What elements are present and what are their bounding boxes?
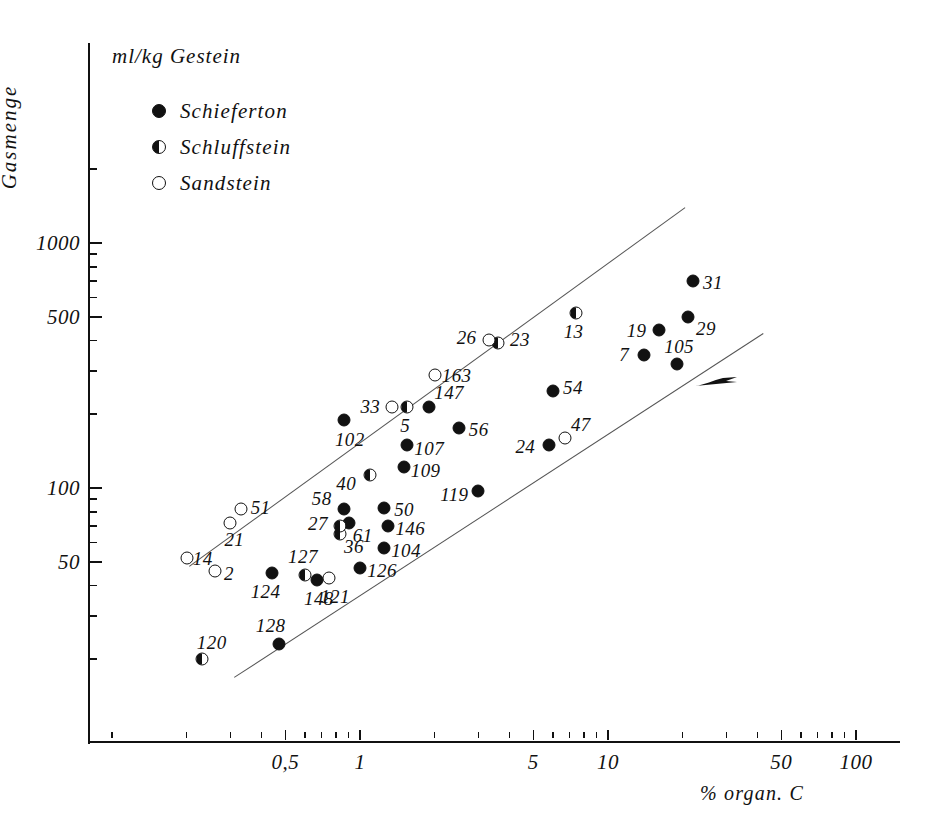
data-point-40 [364, 468, 377, 481]
data-point-label-23: 23 [510, 329, 530, 351]
data-point-label-40: 40 [336, 473, 356, 495]
data-point-51 [234, 503, 247, 516]
x-tick-label: 10 [597, 750, 619, 775]
data-point-127 [298, 569, 311, 582]
x-tick [261, 732, 263, 738]
data-point-label-128: 128 [256, 615, 286, 637]
y-axis-title: Gasmenge [0, 72, 22, 202]
data-point-label-33: 33 [360, 396, 380, 418]
half-circle-icon [152, 140, 166, 154]
y-tick [90, 413, 97, 415]
legend: Schieferton Schluffstein Sandstein [152, 93, 291, 201]
x-tick [533, 730, 535, 740]
x-tick-label: 50 [770, 750, 792, 775]
x-tick [285, 730, 287, 740]
data-point-label-13: 13 [564, 321, 584, 343]
data-point-7 [638, 348, 651, 361]
data-point-5 [401, 400, 414, 413]
x-tick [569, 732, 571, 738]
data-point-31 [686, 274, 699, 287]
data-point-124 [265, 566, 278, 579]
x-tick-label: 0,5 [271, 750, 299, 775]
data-point-29 [681, 310, 694, 323]
data-point-label-29: 29 [696, 318, 716, 340]
x-tick [304, 732, 306, 738]
data-point-label-127: 127 [288, 546, 318, 568]
x-tick [607, 730, 609, 740]
y-tick [90, 316, 102, 318]
data-point-label-31: 31 [703, 272, 723, 294]
x-tick [359, 730, 361, 740]
x-tick [831, 732, 833, 738]
y-tick-label: 50 [2, 549, 80, 574]
data-point-13 [569, 306, 582, 319]
y-tick [90, 266, 97, 268]
data-point-label-5: 5 [400, 415, 410, 437]
data-point-label-51: 51 [251, 497, 271, 519]
x-tick [335, 732, 337, 738]
data-point-label-54: 54 [563, 377, 583, 399]
legend-item-schluffstein: Schluffstein [152, 129, 291, 165]
data-point-label-2: 2 [224, 563, 234, 585]
y-tick [90, 168, 97, 170]
data-point-label-126: 126 [367, 560, 397, 582]
data-point-121 [323, 571, 336, 584]
data-point-109 [397, 460, 410, 473]
x-tick [186, 732, 188, 738]
data-point-146 [382, 519, 395, 532]
y-tick [90, 370, 97, 372]
data-point-label-109: 109 [411, 460, 441, 482]
legend-label: Schluffstein [180, 135, 291, 160]
y-tick [90, 340, 97, 342]
data-point-33 [386, 400, 399, 413]
x-tick [434, 732, 436, 738]
y-tick [90, 242, 102, 244]
data-point-56 [452, 422, 465, 435]
x-tick [800, 732, 802, 738]
legend-label: Sandstein [180, 171, 272, 196]
data-point-label-163: 163 [442, 365, 472, 387]
data-point-label-107: 107 [414, 438, 444, 460]
x-tick [682, 732, 684, 738]
data-point-54 [546, 384, 559, 397]
y-tick [90, 498, 97, 500]
x-tick [321, 732, 323, 738]
data-point-102 [337, 413, 350, 426]
data-point-50 [378, 501, 391, 514]
y-axis-line [88, 43, 90, 744]
data-point-label-21: 21 [224, 529, 244, 551]
x-tick [348, 732, 350, 738]
data-point-163 [428, 368, 441, 381]
data-point-14 [180, 551, 193, 564]
data-point-126 [354, 562, 367, 575]
data-point-label-26: 26 [457, 327, 477, 349]
data-point-105 [671, 358, 684, 371]
data-point-label-58: 58 [312, 488, 332, 510]
data-point-58 [337, 503, 350, 516]
x-tick [844, 732, 846, 738]
data-point-119 [472, 485, 485, 498]
y-tick [90, 511, 97, 513]
data-point-21 [224, 516, 237, 529]
legend-label: Schieferton [180, 99, 288, 124]
x-tick [552, 732, 554, 738]
x-tick [817, 732, 819, 738]
y-tick [90, 561, 102, 563]
y-tick [90, 585, 97, 587]
x-tick [596, 732, 598, 738]
data-point-label-102: 102 [335, 429, 365, 451]
data-point-2 [208, 564, 221, 577]
x-tick [478, 732, 480, 738]
x-axis-line [88, 741, 900, 743]
data-point-24 [543, 438, 556, 451]
scatter-chart: Gasmenge % organ. C ml/kg Gestein Schief… [0, 0, 928, 836]
data-point-label-124: 124 [251, 581, 281, 603]
data-point-label-24: 24 [515, 436, 535, 458]
units-label: ml/kg Gestein [112, 44, 241, 69]
y-tick [90, 253, 97, 255]
data-point-27 [333, 519, 346, 532]
x-tick [509, 732, 511, 738]
data-point-19 [652, 324, 665, 337]
y-tick [90, 615, 97, 617]
x-tick-label: 100 [840, 750, 873, 775]
